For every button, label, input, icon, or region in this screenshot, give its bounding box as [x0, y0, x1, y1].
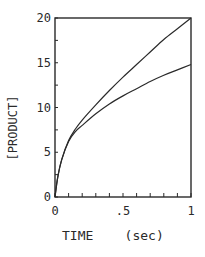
y-tick-label: 20 [37, 11, 51, 25]
x-tick-label: 0 [51, 204, 58, 218]
data-series [55, 18, 191, 197]
plot-frame [55, 18, 191, 197]
x-tick-label: .5 [116, 204, 130, 218]
y-tick-label: 15 [37, 56, 51, 70]
chart: 0.5105101520 [0, 0, 205, 257]
y-tick-label: 5 [44, 145, 51, 159]
x-axis-title: TIME (sec) [62, 228, 164, 243]
plot-area [55, 18, 191, 197]
axis-ticks [55, 18, 191, 197]
y-tick-label: 10 [37, 101, 51, 115]
tick-labels: 0.5105101520 [37, 11, 195, 218]
y-axis-title: [PRODUCT] [6, 95, 20, 160]
y-tick-label: 0 [44, 190, 51, 204]
lower-curve [55, 65, 191, 197]
upper-curve [55, 18, 191, 197]
x-tick-label: 1 [187, 204, 194, 218]
